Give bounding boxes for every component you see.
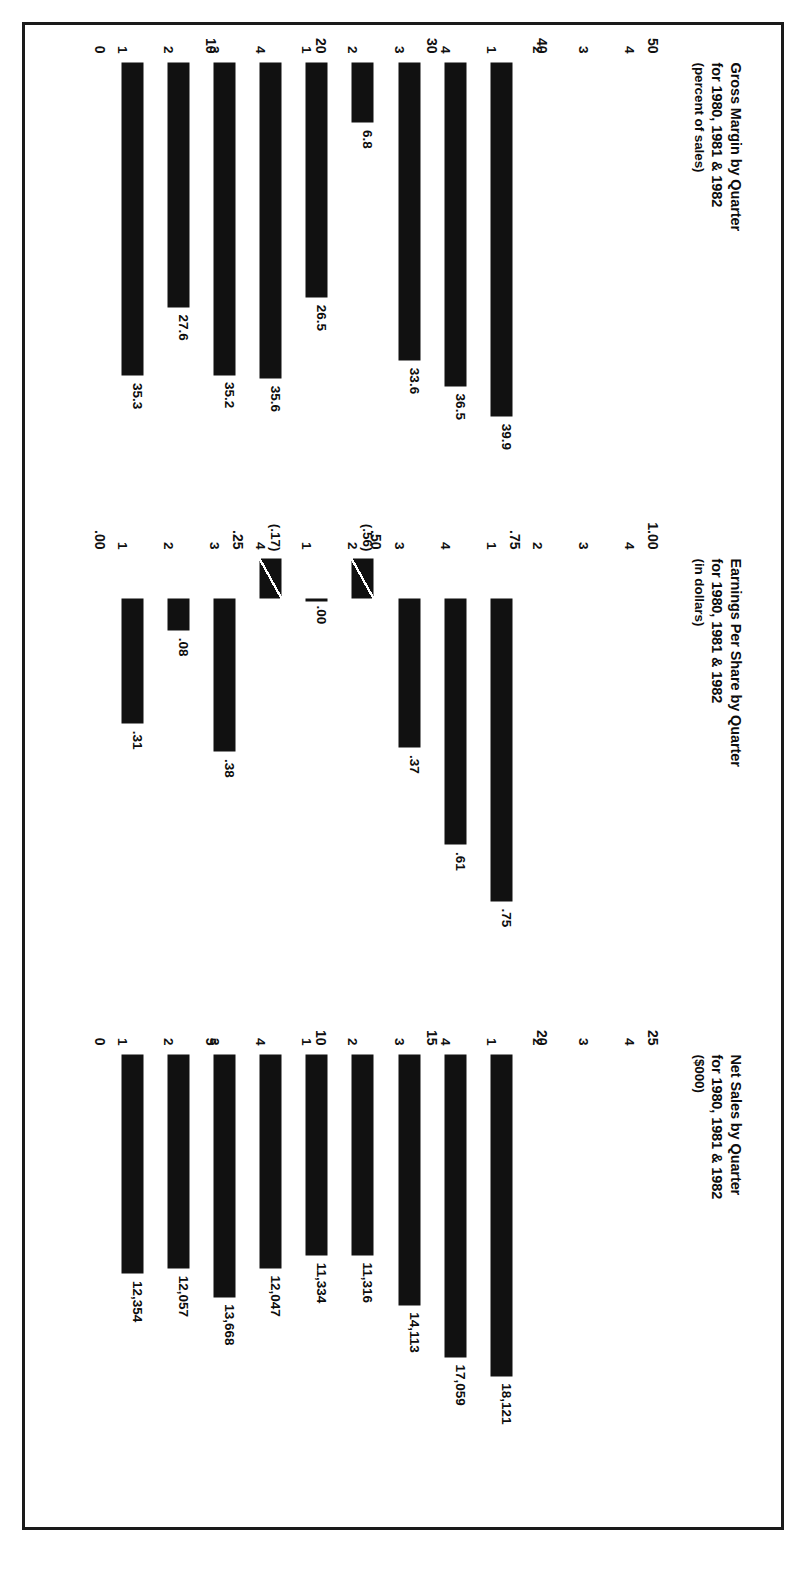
bar-value-label: (.56) [360,524,375,552]
quarter-tick-label: 2 [161,46,176,61]
quarter-tick-label: 1 [484,46,499,61]
chart-subtitle-earnings-per-share: (in dollars) [690,559,707,767]
bar-row: 118,121 [468,1055,514,1499]
bar-value-label: 35.2 [222,382,237,408]
bar-row: 3 [560,63,606,507]
quarter-tick-label: 2 [345,46,360,61]
quarter-tick-label: 2 [530,542,545,557]
quarter-tick-label: 4 [438,46,453,61]
bar-row: 26.8 [330,63,376,507]
quarter-tick-label: 1 [115,46,130,61]
quarter-tick-label: 4 [253,542,268,557]
bar [352,559,374,599]
bar-row: 2.08 [146,559,192,1003]
rotated-chart-page: Net Sales by Quarterfor 1980, 1981 & 198… [26,27,771,1517]
quarter-tick-label: 2 [161,1038,176,1053]
bar-value-label: 6.8 [360,130,375,149]
quarter-tick-label: 4 [438,542,453,557]
bar [168,1055,190,1269]
quarter-tick-label: 2 [530,46,545,61]
quarter-tick-label: 1 [115,1038,130,1053]
bar [398,598,420,747]
chart-subtitle-net-sales: ($000) [690,1055,707,1200]
axis-tick-label: 10 [313,1030,329,1055]
bar-row: 227.6 [146,63,192,507]
bar [444,598,466,844]
bar-row: 126.5 [284,63,330,507]
chart-title-earnings-per-share: Earnings Per Share by Quarterfor 1980, 1… [690,559,744,767]
quarter-tick-label: 1 [299,46,314,61]
bar-series-net-sales: 112,354212,057313,668412,047111,334211,3… [100,1055,653,1499]
bar [214,63,236,376]
bar-series-gross-margin: 135.3227.6335.2435.6126.526.8333.6436.51… [100,63,653,507]
bar-row: 2 [514,559,560,1003]
bar-row: 4.61 [422,559,468,1003]
quarter-tick-label: 3 [392,46,407,61]
quarter-tick-label: 2 [345,542,360,557]
axis-tick-label: 0 [92,1038,108,1055]
chart-panel-net-sales: Net Sales by Quarterfor 1980, 1981 & 198… [26,1021,771,1517]
bar-row: 3.37 [376,559,422,1003]
chart-subtitle-gross-margin: (percent of sales) [690,63,707,232]
bar [444,63,466,387]
chart-title-line2-gross-margin: for 1980, 1981 & 1982 [707,63,726,232]
bar-value-label: 36.5 [452,394,467,420]
bar-value-label: 11,334 [314,1263,329,1304]
bar-value-label: 17,059 [452,1364,467,1405]
bar [490,598,512,901]
bar-value-label: 12,047 [268,1275,283,1316]
bar-row: 135.3 [100,63,146,507]
axis-tick-label: .25 [230,530,246,558]
quarter-tick-label: 1 [299,1038,314,1053]
bar-value-label: 33.6 [406,368,421,394]
bar-row: 4 [606,559,652,1003]
bar [398,1055,420,1306]
quarter-tick-label: 4 [253,1038,268,1053]
bar [306,598,328,601]
bar-value-label: 27.6 [176,315,191,341]
quarter-tick-label: 2 [530,1038,545,1053]
chart-title-line2-net-sales: for 1980, 1981 & 1982 [707,1055,726,1200]
quarter-tick-label: 1 [299,542,314,557]
quarter-tick-label: 1 [115,542,130,557]
bar-value-label: 39.9 [498,424,513,450]
quarter-tick-label: 3 [576,1038,591,1053]
bar [490,63,512,417]
quarter-tick-label: 4 [438,1038,453,1053]
bar-value-label: 11,316 [360,1262,375,1303]
quarter-tick-label: 4 [253,46,268,61]
bar [122,1055,144,1274]
bar-row: 3 [560,1055,606,1499]
bar-row: 412,047 [238,1055,284,1499]
axis-tick-label: .75 [506,530,522,558]
bar-row: 3 [560,559,606,1003]
bar-row: 4 [606,63,652,507]
bar-row: 139.9 [468,63,514,507]
bar-row: 333.6 [376,63,422,507]
bar [214,1055,236,1298]
axis-tick-label: 50 [645,38,661,63]
bar [306,1055,328,1256]
bar-value-label: .75 [498,908,513,927]
bar [490,1055,512,1377]
bar [352,1055,374,1256]
bar-row: 314,113 [376,1055,422,1499]
bar [214,598,236,752]
quarter-tick-label: 3 [207,1038,222,1053]
bar-value-label: 13,668 [222,1304,237,1345]
bar-row: 1.00 [284,559,330,1003]
axis-tick-label: 0 [92,46,108,63]
bar-value-label: 14,113 [406,1312,421,1353]
chart-title-net-sales: Net Sales by Quarterfor 1980, 1981 & 198… [690,1055,744,1200]
bar-value-label: 12,354 [130,1281,145,1322]
quarter-tick-label: 1 [484,542,499,557]
bar-row: 2 [514,1055,560,1499]
bar-row: 1.75 [468,559,514,1003]
bar [444,1055,466,1358]
axis-tick-label: .00 [92,530,108,558]
quarter-tick-label: 2 [161,542,176,557]
axis-tick-label: 20 [313,38,329,63]
bar-row: 417,059 [422,1055,468,1499]
figure-frame: Net Sales by Quarterfor 1980, 1981 & 198… [22,22,784,1530]
chart-panel-earnings-per-share: Earnings Per Share by Quarterfor 1980, 1… [26,525,771,1021]
